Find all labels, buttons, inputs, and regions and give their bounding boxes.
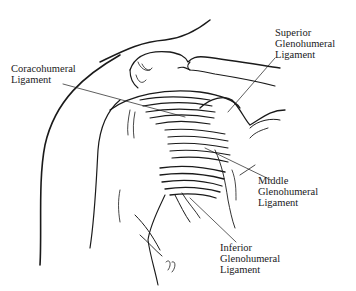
label-line: Ligament [220,264,280,275]
label-line: Glenohumeral [275,38,335,49]
clavicle-bottom [178,67,275,86]
label-line: Coracohumeral [11,63,76,74]
label-line: Superior [275,27,335,38]
middle-glenohumeral-fibers [165,129,230,162]
superior-leader [228,58,275,112]
anatomy-figure: Superior Glenohumeral Ligament Coracohum… [0,0,356,291]
clavicle-top [130,52,280,70]
arm-outline [40,55,120,265]
coracohumeral-label: Coracohumeral Ligament [11,63,76,85]
coracohumeral-leader [63,84,185,117]
coracohumeral-fibers [140,97,215,124]
label-line: Ligament [258,197,318,208]
inferior-glenohumeral-label: Inferior Glenohumeral Ligament [220,242,280,275]
label-line: Ligament [11,74,76,85]
humeral-head [110,91,240,110]
label-line: Glenohumeral [258,186,318,197]
label-line: Inferior [220,242,280,253]
middle-glenohumeral-label: Middle Glenohumeral Ligament [258,175,318,208]
superior-glenohumeral-label: Superior Glenohumeral Ligament [275,27,335,60]
label-line: Glenohumeral [220,253,280,264]
label-line: Middle [258,175,318,186]
leader-lines [63,58,275,242]
shoulder-top-outline [100,20,210,62]
humerus-outline [90,100,120,248]
inferior-glenohumeral-fibers [160,167,225,198]
label-line: Ligament [275,49,335,60]
